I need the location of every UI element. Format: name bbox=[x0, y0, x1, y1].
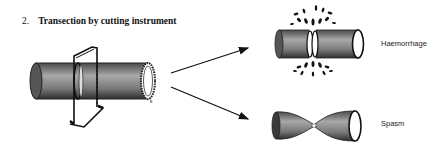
diagram-canvas: k bbox=[0, 0, 446, 157]
blood-spurts-top bbox=[290, 5, 336, 26]
blood-spurts-bottom bbox=[293, 61, 333, 77]
arrow-to-spasm bbox=[171, 87, 248, 119]
outcome-label-haemorrhage: Haemorrhage bbox=[381, 39, 427, 48]
outcome-label-spasm: Spasm bbox=[381, 119, 404, 128]
svg-text:k: k bbox=[150, 98, 153, 104]
haemorrhage-illustration bbox=[275, 5, 364, 77]
arrow-to-haemorrhage bbox=[171, 48, 248, 73]
spasm-illustration bbox=[272, 111, 361, 141]
vessel-with-instrument: k bbox=[30, 47, 155, 127]
